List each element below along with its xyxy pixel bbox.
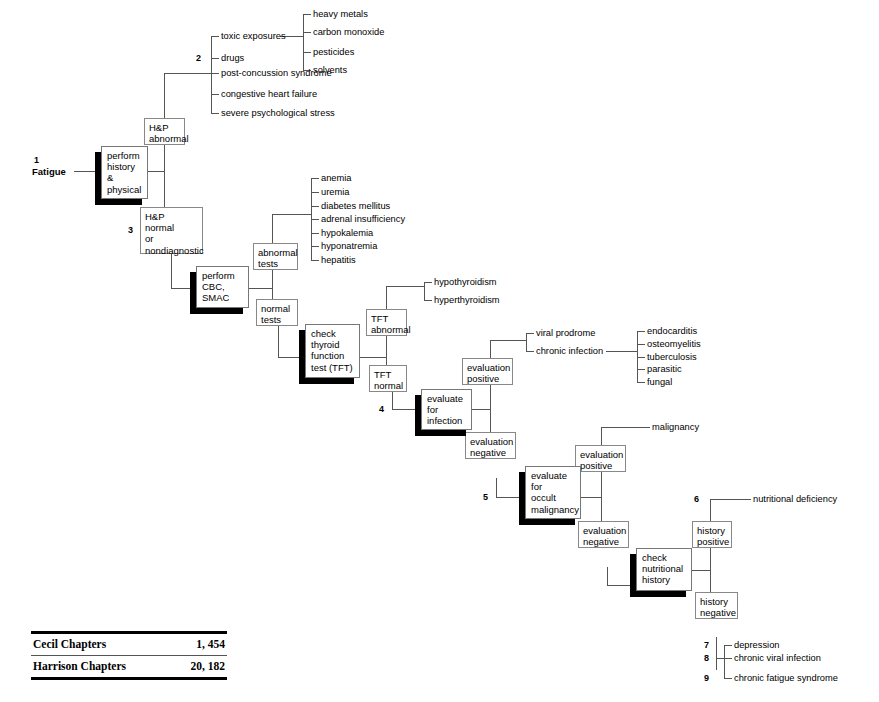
node-line: history <box>642 574 687 585</box>
node-malignancy-evaluation-negative[interactable]: evaluation negative <box>578 521 629 548</box>
node-line: SMAC <box>202 292 244 303</box>
leaf-osteomyelitis: osteomyelitis <box>647 339 701 349</box>
node-line: positive <box>697 536 727 547</box>
node-check-thyroid-function-test[interactable]: check thyroid function test (TFT) <box>299 324 354 378</box>
table-row: Cecil Chapters 1, 454 <box>31 634 227 655</box>
key-number-5: 5 <box>483 492 488 502</box>
node-line: normal <box>145 222 198 233</box>
leaf-hyponatremia: hyponatremia <box>321 241 377 251</box>
key-number-7: 7 <box>704 640 709 650</box>
node-line: H&P <box>145 211 198 222</box>
leaf-endocarditis: endocarditis <box>647 326 697 336</box>
node-line: physical <box>107 184 143 195</box>
node-face: perform CBC, SMAC <box>196 266 249 308</box>
node-line: malignancy <box>531 504 576 515</box>
leaf-malignancy: malignancy <box>652 422 699 432</box>
node-face: check nutritional history <box>636 548 692 591</box>
table-row: Harrison Chapters 20, 182 <box>31 656 227 677</box>
fatigue-algorithm-diagram: 1 Fatigue perform history & physical per… <box>0 0 879 702</box>
node-line: or <box>145 233 198 244</box>
leaf-hepatitis: hepatitis <box>321 255 356 265</box>
node-face: perform history & physical <box>101 146 148 199</box>
leaf-fungal: fungal <box>647 377 672 387</box>
key-number-6: 6 <box>694 494 699 504</box>
leaf-nutritional-deficiency: nutritional deficiency <box>753 494 837 504</box>
leaf-pesticides: pesticides <box>313 47 354 57</box>
node-line: test (TFT) <box>311 362 355 373</box>
key-number-1: 1 <box>34 155 39 165</box>
node-line: negative <box>583 536 624 547</box>
node-line: evaluate <box>427 393 467 404</box>
node-perform-cbc-smac[interactable]: perform CBC, SMAC <box>190 266 243 308</box>
node-line: TFT <box>371 313 402 324</box>
node-line: TFT <box>374 369 402 380</box>
node-hp-abnormal[interactable]: H&P abnormal <box>144 118 185 145</box>
node-line: check <box>642 552 687 563</box>
node-line: for <box>427 404 467 415</box>
leaf-chronic-fatigue-syndrome: chronic fatigue syndrome <box>734 673 838 683</box>
node-line: negative <box>700 607 733 618</box>
node-line: evaluate <box>531 470 576 481</box>
node-evaluate-for-infection[interactable]: evaluate for infection <box>415 389 466 430</box>
table-cell-chapters: 1, 454 <box>196 638 225 650</box>
node-line: CBC, <box>202 281 244 292</box>
chapters-table: Cecil Chapters 1, 454 Harrison Chapters … <box>31 631 227 680</box>
node-line: evaluation <box>470 436 511 447</box>
node-evaluate-for-occult-malignancy[interactable]: evaluate for occult malignancy <box>519 466 575 519</box>
node-face: check thyroid function test (TFT) <box>305 324 360 378</box>
key-number-9: 9 <box>704 673 709 683</box>
node-perform-history-physical[interactable]: perform history & physical <box>95 146 142 199</box>
node-tft-abnormal[interactable]: TFT abnormal <box>366 309 407 336</box>
node-line: & <box>107 172 143 183</box>
node-line: tests <box>258 258 293 269</box>
node-line: abnormal <box>149 133 180 144</box>
node-line: normal <box>374 380 402 391</box>
node-abnormal-tests[interactable]: abnormal tests <box>253 243 298 270</box>
leaf-depression: depression <box>734 640 779 650</box>
node-line: perform <box>107 150 143 161</box>
node-infection-evaluation-positive[interactable]: evaluation positive <box>462 358 513 385</box>
connector-lines <box>0 0 879 702</box>
node-line: evaluation <box>580 449 621 460</box>
leaf-diabetes-mellitus: diabetes mellitus <box>321 201 390 211</box>
node-face: evaluate for infection <box>421 389 472 430</box>
table-rule-bottom <box>31 677 227 680</box>
node-line: check <box>311 328 355 339</box>
leaf-severe-psychological-stress: severe psychological stress <box>221 108 335 118</box>
leaf-carbon-monoxide: carbon monoxide <box>313 27 384 37</box>
node-history-positive[interactable]: history positive <box>692 521 732 548</box>
node-line: abnormal <box>371 324 402 335</box>
node-line: negative <box>470 447 511 458</box>
node-line: evaluation <box>583 525 624 536</box>
node-line: infection <box>427 415 467 426</box>
leaf-hypothyroidism: hypothyroidism <box>434 277 497 287</box>
leaf-toxic-exposures: toxic exposures <box>221 31 286 41</box>
node-line: tests <box>261 314 293 325</box>
node-line: function <box>311 350 355 361</box>
key-number-2: 2 <box>196 53 201 63</box>
leaf-drugs: drugs <box>221 53 244 63</box>
node-history-negative[interactable]: history negative <box>695 592 738 619</box>
node-line: nondiagnostic <box>145 245 198 256</box>
node-line: positive <box>467 373 508 384</box>
leaf-tuberculosis: tuberculosis <box>647 352 697 362</box>
node-line: history <box>697 525 727 536</box>
leaf-congestive-heart-failure: congestive heart failure <box>221 89 317 99</box>
node-infection-evaluation-negative[interactable]: evaluation negative <box>465 432 516 459</box>
leaf-heavy-metals: heavy metals <box>313 9 368 19</box>
node-check-nutritional-history[interactable]: check nutritional history <box>630 548 686 591</box>
root-label-fatigue: Fatigue <box>32 166 66 178</box>
node-malignancy-evaluation-positive[interactable]: evaluation positive <box>575 445 626 472</box>
table-cell-source: Cecil Chapters <box>33 638 106 650</box>
leaf-uremia: uremia <box>321 187 349 197</box>
node-line: normal <box>261 303 293 314</box>
node-line: thyroid <box>311 339 355 350</box>
node-line: history <box>107 161 143 172</box>
node-line: for <box>531 481 576 492</box>
node-face: evaluate for occult malignancy <box>525 466 581 519</box>
node-normal-tests[interactable]: normal tests <box>256 299 298 326</box>
node-line: abnormal <box>258 247 293 258</box>
node-tft-normal[interactable]: TFT normal <box>369 365 407 392</box>
node-hp-normal-nondiagnostic[interactable]: H&P normal or nondiagnostic <box>140 207 203 254</box>
leaf-parasitic: parasitic <box>647 364 682 374</box>
